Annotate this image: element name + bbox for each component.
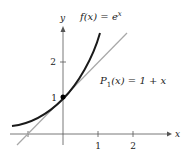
x-tick-label-1: 1 <box>95 141 101 151</box>
exp-curve <box>12 33 100 126</box>
y-tick-label-1: 1 <box>51 93 57 103</box>
x-axis-label: x <box>175 129 180 139</box>
f-label-exponent: x <box>118 10 122 18</box>
y-axis-label: y <box>59 13 66 23</box>
f-label: f(x) = ex <box>79 10 122 22</box>
y-tick-label-2: 2 <box>50 57 56 67</box>
p1-label: P1(x) = 1 + x <box>99 75 166 89</box>
x-tick-label-2: 2 <box>130 141 136 151</box>
x-axis-arrow-icon <box>167 132 172 137</box>
p1-label-rest: (x) = 1 + x <box>111 75 166 86</box>
y-axis-arrow-icon <box>61 26 66 32</box>
taylor-approximation-plot: 1 2 2 1 x y f(x) = ex P1(x) = 1 + x <box>0 0 187 156</box>
f-label-main: f(x) = e <box>79 11 118 22</box>
tangent-point <box>61 95 66 100</box>
